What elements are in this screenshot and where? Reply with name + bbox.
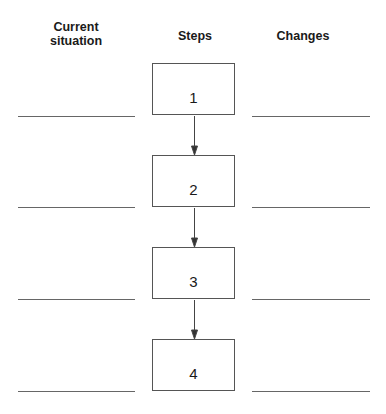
current-situation-line-1 — [18, 116, 135, 117]
arrowhead-icon — [192, 330, 198, 339]
step-label-4: 4 — [153, 366, 234, 382]
current-situation-line-2 — [18, 207, 135, 208]
step-label-1: 1 — [153, 90, 234, 106]
step-box-2: 2 — [152, 155, 235, 207]
changes-line-3 — [252, 299, 370, 300]
step-box-3: 3 — [152, 247, 235, 299]
arrowhead-icon — [192, 238, 198, 247]
step-box-4: 4 — [152, 339, 235, 391]
arrowhead-icon — [192, 146, 198, 155]
step-label-3: 3 — [153, 274, 234, 290]
changes-line-4 — [252, 391, 370, 392]
current-situation-line-4 — [18, 391, 135, 392]
changes-line-2 — [252, 207, 370, 208]
step-label-2: 2 — [153, 182, 234, 198]
step-box-1: 1 — [152, 63, 235, 115]
current-situation-line-3 — [18, 299, 135, 300]
changes-line-1 — [252, 116, 370, 117]
